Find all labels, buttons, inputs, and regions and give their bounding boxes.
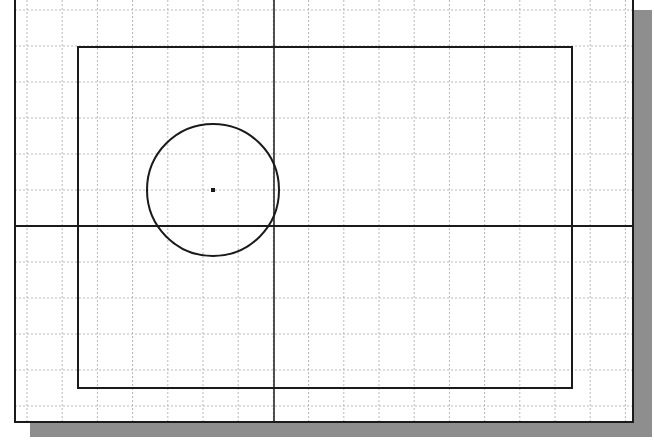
shadow-bottom	[30, 422, 652, 437]
circle-center-point[interactable]	[211, 188, 215, 192]
shadow-right	[633, 10, 652, 437]
sketch-canvas[interactable]	[0, 0, 654, 446]
drawing-area[interactable]	[15, 0, 633, 422]
sketch-svg	[0, 0, 654, 446]
